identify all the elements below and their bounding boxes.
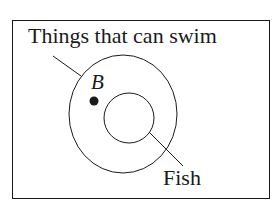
inner-set-leader-line — [149, 132, 183, 166]
outer-set-circle — [69, 55, 177, 173]
point-label: B — [91, 70, 104, 94]
venn-diagram: Things that can swim Fish B — [0, 0, 278, 203]
point-b-dot — [90, 97, 99, 106]
inner-set-label: Fish — [163, 165, 201, 190]
outer-set-leader-line — [53, 56, 81, 76]
outer-set-label: Things that can swim — [28, 23, 217, 48]
inner-set-circle — [104, 93, 154, 143]
